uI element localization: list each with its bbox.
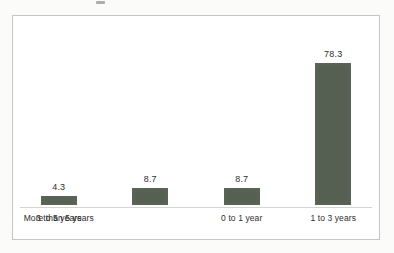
category-label: 0 to 1 year	[196, 213, 288, 223]
scan-artifact-speck	[96, 1, 105, 4]
bar-stack: 8.7	[105, 45, 197, 205]
bar-value-label: 8.7	[235, 174, 248, 185]
bars-layer: 4.3 8.7 8.7 78.3	[13, 16, 379, 239]
plot-area: 4.3 8.7 8.7 78.3	[13, 16, 379, 239]
bar-value-label: 78.3	[324, 49, 342, 60]
bar-rect[interactable]	[315, 63, 351, 205]
bar-rect[interactable]	[41, 196, 77, 205]
bar-stack: 8.7	[196, 45, 288, 205]
bar-stack: 78.3	[288, 45, 380, 205]
bar-stack: 4.3	[13, 45, 105, 205]
bar-group: 8.7	[196, 45, 288, 205]
bar-group: 78.3	[288, 45, 380, 205]
category-label: More than 5 years	[13, 213, 105, 223]
chart-frame: 4.3 8.7 8.7 78.3	[12, 15, 380, 240]
bar-group: 4.3	[13, 45, 105, 205]
category-label: 1 to 3 years	[288, 213, 380, 223]
bar-rect[interactable]	[132, 188, 168, 205]
bar-value-label: 8.7	[144, 174, 157, 185]
bar-value-label: 4.3	[52, 182, 65, 193]
bar-group: 8.7	[105, 45, 197, 205]
bar-rect[interactable]	[224, 188, 260, 205]
